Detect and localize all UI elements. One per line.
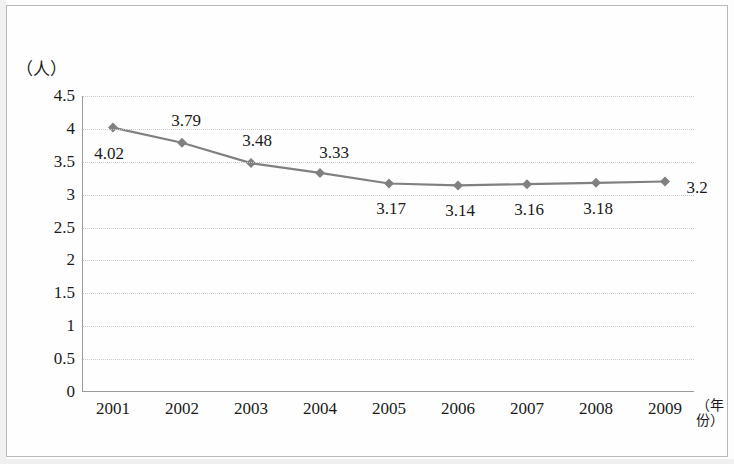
data-point-label: 3.2 <box>686 178 707 198</box>
y-axis-tick-label: 3.5 <box>54 152 75 172</box>
x-axis-tick-label: 2009 <box>648 399 682 419</box>
data-point-marker <box>453 180 463 190</box>
y-axis-tick-label: 2.5 <box>54 218 75 238</box>
x-axis-tick-label: 2002 <box>165 399 199 419</box>
data-point-label: 4.02 <box>94 144 124 164</box>
y-axis-tick-label: 3 <box>67 185 76 205</box>
data-point-marker <box>315 168 325 178</box>
data-point-marker <box>522 179 532 189</box>
y-axis-tick-label: 0.5 <box>54 349 75 369</box>
y-axis-unit-label: （人） <box>16 55 67 80</box>
y-axis-tick-label: 2 <box>67 250 76 270</box>
data-point-label: 3.79 <box>171 111 201 131</box>
series-line <box>113 128 665 186</box>
data-point-marker <box>177 138 187 148</box>
x-axis-tick-label: 2007 <box>510 399 544 419</box>
y-axis-tick-label: 4.5 <box>54 86 75 106</box>
x-axis-tick-label: 2008 <box>579 399 613 419</box>
gridline <box>83 359 694 360</box>
y-axis-tick-label: 1.5 <box>54 283 75 303</box>
data-point-marker <box>660 177 670 187</box>
data-point-label: 3.14 <box>445 201 475 221</box>
x-axis-tick-label: 2004 <box>303 399 337 419</box>
y-axis-tick-label: 1 <box>67 316 76 336</box>
x-axis-tick-label: 2001 <box>96 399 130 419</box>
data-point-label: 3.17 <box>376 199 406 219</box>
gridline <box>83 228 694 229</box>
x-axis-tick-label: 2006 <box>441 399 475 419</box>
data-point-marker <box>246 158 256 168</box>
chart-page: （人） 00.511.522.533.544.52001200220032004… <box>0 0 734 464</box>
scan-edge-bottom <box>0 459 734 464</box>
data-point-label: 3.33 <box>319 143 349 163</box>
plot-area: 00.511.522.533.544.520012002200320042005… <box>82 96 694 392</box>
data-point-label: 3.48 <box>242 131 272 151</box>
gridline <box>83 326 694 327</box>
data-point-marker <box>384 178 394 188</box>
gridline <box>83 96 694 97</box>
x-axis-tick-label: 2003 <box>234 399 268 419</box>
data-point-label: 3.18 <box>583 199 613 219</box>
line-series <box>83 96 695 392</box>
x-axis-title: （年份） <box>696 398 712 428</box>
gridline <box>83 162 694 163</box>
gridline <box>83 293 694 294</box>
y-axis-tick-label: 4 <box>67 119 76 139</box>
data-point-label: 3.16 <box>514 200 544 220</box>
gridline <box>83 195 694 196</box>
x-axis-tick-label: 2005 <box>372 399 406 419</box>
data-point-marker <box>591 178 601 188</box>
gridline <box>83 260 694 261</box>
y-axis-tick-label: 0 <box>67 382 76 402</box>
data-point-marker <box>108 123 118 133</box>
